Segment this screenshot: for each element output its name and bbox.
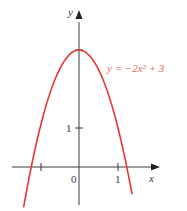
x-axis-arrow-icon bbox=[151, 164, 160, 171]
y-tick-label-1: 1 bbox=[66, 122, 72, 134]
equation-label: y = −2x² + 3 bbox=[106, 62, 165, 74]
origin-label: 0 bbox=[71, 173, 77, 185]
x-axis-label: x bbox=[148, 172, 154, 184]
parabola-plot: y x 0 1 1 y = −2x² + 3 bbox=[0, 0, 187, 211]
y-axis-arrow-icon bbox=[76, 10, 83, 19]
x-tick-label-1: 1 bbox=[115, 173, 121, 185]
y-axis-label: y bbox=[67, 6, 73, 18]
